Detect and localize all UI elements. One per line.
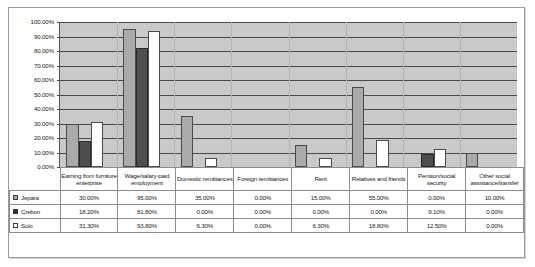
data-cell: 0.00% xyxy=(176,205,234,219)
plot-area xyxy=(59,22,517,168)
y-tick-label: 10.00% xyxy=(34,150,54,156)
table-row: Jepara30.00%95.00%35.00%0.00%15.00%55.00… xyxy=(10,191,524,205)
table-row: Solo31.30%93.80%6.30%0.00%6.30%18.80%12.… xyxy=(10,219,524,233)
y-tick-label: 30.00% xyxy=(34,121,54,127)
category-separator xyxy=(346,22,347,167)
column-header: Domestic remittances xyxy=(176,168,234,191)
data-cell: 18.80% xyxy=(350,219,408,233)
table-corner-cell xyxy=(10,168,61,191)
bar-jepara xyxy=(181,116,193,167)
data-cell: 31.30% xyxy=(60,219,118,233)
bar-crebon xyxy=(136,48,148,167)
column-header: Pension/social security xyxy=(408,168,466,191)
data-cell: 0.00% xyxy=(234,219,292,233)
legend-label: Jepara xyxy=(21,194,39,201)
column-header: Earning from furniture enterprise xyxy=(60,168,118,191)
data-table-container: Earning from furniture enterpriseWage/sa… xyxy=(9,167,524,233)
y-tick-label: 80.00% xyxy=(34,48,54,54)
bar-group xyxy=(403,22,460,167)
y-tick-label: 40.00% xyxy=(34,106,54,112)
legend-swatch-icon xyxy=(13,209,18,214)
data-cell: 93.80% xyxy=(118,219,176,233)
data-cell: 30.00% xyxy=(60,191,118,205)
bar-crebon xyxy=(79,141,91,167)
bar-group xyxy=(346,22,403,167)
category-separator xyxy=(403,22,404,167)
legend-item-jepara: Jepara xyxy=(10,191,61,205)
category-separator xyxy=(231,22,232,167)
column-header: Relatives and friends xyxy=(350,168,408,191)
table-header-row: Earning from furniture enterpriseWage/sa… xyxy=(10,168,524,191)
data-cell: 81.80% xyxy=(118,205,176,219)
bar-solo xyxy=(148,31,160,167)
legend-label: Crebon xyxy=(21,208,40,215)
legend-item-crebon: Crebon xyxy=(10,205,61,219)
bar-jepara xyxy=(466,153,478,168)
data-table: Earning from furniture enterpriseWage/sa… xyxy=(9,167,524,233)
y-tick-label: 50.00% xyxy=(34,92,54,98)
bar-group xyxy=(460,22,517,167)
column-header: Wage/salary-paid employment xyxy=(118,168,176,191)
data-cell: 0.00% xyxy=(466,205,524,219)
data-cell: 15.00% xyxy=(292,191,350,205)
y-tick-label: 90.00% xyxy=(34,34,54,40)
y-axis-tick-labels: 0.00%10.00%20.00%30.00%40.00%50.00%60.00… xyxy=(9,22,57,167)
bar-solo xyxy=(205,158,217,167)
data-cell: 0.00% xyxy=(234,205,292,219)
table-row: Crebon18.20%81.80%0.00%0.00%0.00%0.00%9.… xyxy=(10,205,524,219)
bar-chart: 0.00%10.00%20.00%30.00%40.00%50.00%60.00… xyxy=(9,8,524,188)
bar-crebon xyxy=(421,154,433,167)
data-cell: 0.00% xyxy=(292,205,350,219)
bar-solo xyxy=(319,158,331,167)
data-cell: 55.00% xyxy=(350,191,408,205)
legend-label: Solo xyxy=(21,222,33,229)
bar-jepara xyxy=(66,124,78,168)
column-header: Foreign remittances xyxy=(234,168,292,191)
data-cell: 0.00% xyxy=(466,219,524,233)
bar-group xyxy=(117,22,174,167)
data-cell: 0.00% xyxy=(234,191,292,205)
data-cell: 6.30% xyxy=(176,219,234,233)
data-cell: 95.00% xyxy=(118,191,176,205)
category-separator xyxy=(289,22,290,167)
bar-solo xyxy=(91,122,103,167)
legend-item-solo: Solo xyxy=(10,219,61,233)
category-separator xyxy=(174,22,175,167)
data-cell: 18.20% xyxy=(60,205,118,219)
bar-jepara xyxy=(123,29,135,167)
column-header: Other social assistance/transfer xyxy=(466,168,524,191)
bar-group xyxy=(289,22,346,167)
y-tick-label: 20.00% xyxy=(34,135,54,141)
legend-swatch-icon xyxy=(13,223,18,228)
category-separator xyxy=(117,22,118,167)
y-tick-label: 60.00% xyxy=(34,77,54,83)
chart-frame: 0.00%10.00%20.00%30.00%40.00%50.00%60.00… xyxy=(8,7,525,258)
data-cell: 9.10% xyxy=(408,205,466,219)
y-tick-label: 70.00% xyxy=(34,63,54,69)
data-cell: 0.00% xyxy=(350,205,408,219)
table-body: Jepara30.00%95.00%35.00%0.00%15.00%55.00… xyxy=(10,191,524,233)
bar-jepara xyxy=(295,145,307,167)
bar-solo xyxy=(376,140,388,167)
bar-jepara xyxy=(352,87,364,167)
data-cell: 6.30% xyxy=(292,219,350,233)
column-header: Rent xyxy=(292,168,350,191)
data-cell: 12.50% xyxy=(408,219,466,233)
bar-group xyxy=(231,22,288,167)
data-cell: 0.00% xyxy=(408,191,466,205)
legend-swatch-icon xyxy=(13,195,18,200)
bar-group xyxy=(174,22,231,167)
bar-group xyxy=(60,22,117,167)
y-tick-label: 100.00% xyxy=(31,19,54,25)
category-separator xyxy=(460,22,461,167)
bar-solo xyxy=(434,149,446,167)
data-cell: 10.00% xyxy=(466,191,524,205)
data-cell: 35.00% xyxy=(176,191,234,205)
